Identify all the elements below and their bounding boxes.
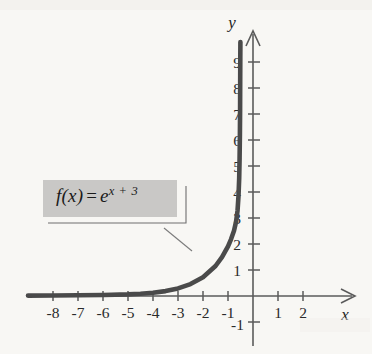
x-axis-label: x (340, 305, 349, 324)
formula-exponent: x + 3 (109, 184, 138, 198)
x-tick-label: -8 (47, 304, 60, 321)
x-tick-label: -6 (97, 304, 110, 321)
y-tick-label: -1 (231, 316, 244, 333)
y-tick-label: 2 (233, 236, 241, 253)
callout-leader-line (164, 228, 192, 251)
x-tick-label: -2 (197, 304, 210, 321)
x-tick-label: -5 (122, 304, 135, 321)
function-curve (28, 42, 240, 296)
y-axis-ticks (248, 62, 260, 322)
exponential-function-figure: -8 -7 -6 -5 -4 -3 -2 -1 1 2 9 8 7 6 5 4 … (0, 0, 372, 354)
function-formula: f(x)=ex + 3 (56, 184, 138, 207)
x-tick-label: -7 (72, 304, 85, 321)
formula-variable: x (68, 185, 77, 206)
x-tick-label: -3 (172, 304, 185, 321)
y-tick-label: 1 (233, 262, 241, 279)
graph-canvas: -8 -7 -6 -5 -4 -3 -2 -1 1 2 9 8 7 6 5 4 … (0, 0, 372, 354)
x-tick-labels: -8 -7 -6 -5 -4 -3 -2 -1 1 2 (47, 304, 307, 321)
formula-equals: = (83, 185, 100, 206)
y-axis-label: y (226, 13, 236, 32)
formula-base: e (100, 185, 109, 206)
y-axis (246, 31, 260, 346)
x-tick-label: 2 (299, 304, 307, 321)
x-tick-label: 1 (274, 304, 282, 321)
x-tick-label: -4 (147, 304, 160, 321)
